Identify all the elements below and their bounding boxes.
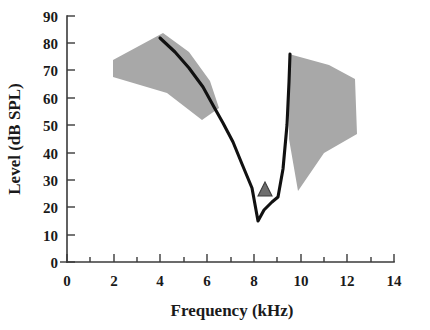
y-tick-label: 20: [43, 200, 58, 216]
x-tick-label: 12: [340, 273, 355, 289]
y-tick-labels: 90 80 70 60 50 40 30 20 10 0: [43, 9, 58, 271]
chart-canvas: 90 80 70 60 50 40 30 20 10 0 0 2 4 6 8 1…: [0, 0, 430, 330]
y-tick-label: 40: [43, 146, 58, 162]
x-tick-label: 8: [250, 273, 258, 289]
y-tick-label: 70: [43, 63, 58, 79]
y-tick-label: 0: [51, 255, 59, 271]
y-tick-label: 30: [43, 173, 58, 189]
y-tick-label: 50: [43, 118, 58, 134]
range-band-low-frequency: [113, 33, 219, 120]
tuning-curve-figure: 90 80 70 60 50 40 30 20 10 0 0 2 4 6 8 1…: [0, 0, 430, 330]
y-tick-label: 90: [43, 9, 58, 25]
characteristic-frequency-marker: [258, 182, 272, 196]
y-tick-label: 80: [43, 36, 58, 52]
y-tick-label: 60: [43, 91, 58, 107]
x-tick-label: 14: [387, 273, 403, 289]
range-band-group: [113, 33, 357, 191]
x-axis-title: Frequency (kHz): [171, 301, 294, 320]
y-axis-title: Level (dB SPL): [5, 83, 24, 194]
x-tick-labels: 0 2 4 6 8 10 12 14: [63, 273, 402, 289]
x-tick-label: 6: [203, 273, 211, 289]
x-tick-label: 0: [63, 273, 71, 289]
x-tick-label: 4: [156, 273, 164, 289]
x-tick-label: 2: [110, 273, 118, 289]
x-axis-ticks: [67, 254, 394, 262]
y-tick-label: 10: [43, 228, 58, 244]
x-tick-label: 10: [294, 273, 309, 289]
range-band-high-frequency: [289, 54, 357, 191]
